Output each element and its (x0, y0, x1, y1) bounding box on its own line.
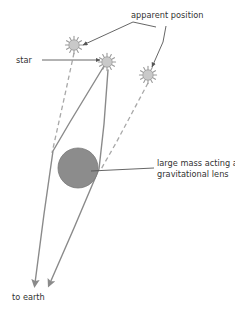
leader-apparent-position-left (83, 22, 156, 45)
label-to-earth: to earth (12, 292, 45, 302)
gravitational-lens-mass (58, 148, 98, 188)
apparent-line-left (52, 53, 74, 153)
leader-lines-group (42, 22, 166, 171)
apparent-star-left (65, 36, 82, 53)
label-large-mass-line2: gravitational lens (157, 169, 229, 179)
real-star-center (98, 53, 115, 70)
label-apparent-position: apparent position (131, 10, 203, 20)
gravitational-lensing-diagram: apparent position star large mass acting… (0, 0, 235, 310)
label-star: star (16, 55, 33, 65)
leader-large-mass (91, 168, 154, 171)
diagram-canvas: apparent position star large mass acting… (0, 0, 235, 310)
apparent-line-right (100, 83, 148, 171)
label-large-mass-line1: large mass acting as (157, 158, 235, 168)
leader-apparent-position-right (152, 26, 166, 67)
apparent-star-right (139, 66, 156, 83)
